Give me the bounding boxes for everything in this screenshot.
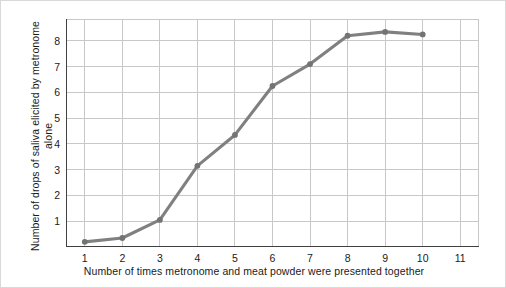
x-tick-label: 2 bbox=[108, 252, 136, 264]
x-axis-title: Number of times metronome and meat powde… bbox=[1, 265, 506, 277]
x-tick-label: 6 bbox=[259, 252, 287, 264]
data-point-marker bbox=[157, 217, 163, 223]
x-tick-label: 9 bbox=[371, 252, 399, 264]
data-point-marker bbox=[307, 61, 313, 67]
data-line bbox=[85, 32, 423, 242]
y-tick-label: 8 bbox=[36, 35, 60, 47]
data-point-marker bbox=[195, 163, 201, 169]
x-tick-label: 3 bbox=[146, 252, 174, 264]
x-tick-label: 1 bbox=[71, 252, 99, 264]
x-tick-label: 10 bbox=[409, 252, 437, 264]
data-point-marker bbox=[345, 33, 351, 39]
y-tick-label: 5 bbox=[36, 112, 60, 124]
data-point-marker bbox=[119, 235, 125, 241]
chart-figure: Number of drops of saliva elicited by me… bbox=[0, 0, 506, 288]
x-tick-label: 5 bbox=[221, 252, 249, 264]
y-tick-label: 7 bbox=[36, 61, 60, 73]
data-point-marker bbox=[382, 29, 388, 35]
chart-plot-svg bbox=[66, 19, 479, 247]
x-tick-label: 4 bbox=[183, 252, 211, 264]
data-point-marker bbox=[270, 83, 276, 89]
x-tick-label: 7 bbox=[296, 252, 324, 264]
data-point-marker bbox=[420, 32, 426, 38]
y-tick-label: 4 bbox=[36, 138, 60, 150]
x-tick-label: 11 bbox=[446, 252, 474, 264]
y-tick-label: 6 bbox=[36, 86, 60, 98]
data-point-marker bbox=[232, 132, 238, 138]
y-tick-label: 1 bbox=[36, 215, 60, 227]
y-tick-label: 3 bbox=[36, 164, 60, 176]
x-tick-label: 8 bbox=[334, 252, 362, 264]
data-point-marker bbox=[82, 239, 88, 245]
plot-area bbox=[66, 19, 479, 247]
y-tick-label: 2 bbox=[36, 189, 60, 201]
